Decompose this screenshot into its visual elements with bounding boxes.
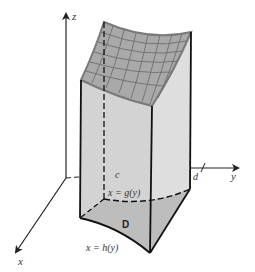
region-d-label: D	[122, 219, 129, 230]
y-axis-label: y	[230, 170, 236, 182]
solid	[80, 22, 191, 253]
x-axis	[16, 178, 66, 252]
left-vertical-edge	[80, 80, 81, 218]
tick-c-label: c	[115, 169, 120, 180]
z-axis-label: z	[71, 10, 77, 22]
x-axis-label: x	[17, 255, 23, 267]
right-vertical-edge	[190, 32, 191, 189]
solid-region-diagram: z x y c d x = g(y) x = h(y) D	[0, 0, 255, 272]
curve-h-label: x = h(y)	[85, 242, 119, 254]
curve-g-label: x = g(y)	[107, 187, 141, 199]
tick-d-label: d	[193, 171, 199, 182]
